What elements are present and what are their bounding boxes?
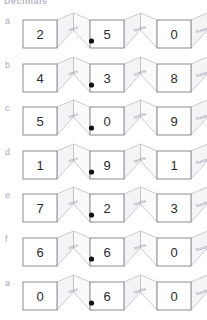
digit-value-2: 3 [170,201,177,216]
digit-cell[interactable]: 6 [90,282,124,310]
digit-value-1: 3 [103,70,110,85]
digit-value-0: 2 [36,27,43,42]
row-label: a [5,17,10,26]
fold-panel-right-face [141,144,158,179]
fold-panel-right-face [74,144,91,179]
place-value-strip: onestenthshundredths509 [23,99,204,139]
place-value-strip-graphic: onestenthshundredths250 [23,12,204,52]
digit-cell[interactable]: 7 [23,194,57,222]
fold-panel: tenths [124,100,157,135]
strip-row: conestenthshundredths509 [0,98,207,142]
place-value-strip-graphic: onestenthshundredths660 [23,230,204,270]
row-label: c [5,104,10,113]
digit-cell[interactable]: 6 [23,238,57,266]
digit-value-0: 5 [36,114,43,129]
digit-cell[interactable]: 6 [90,238,124,266]
digit-value-2: 8 [170,70,177,85]
row-label: a [5,279,10,288]
fold-panel-right-face [74,13,91,48]
digit-value-1: 6 [103,288,110,303]
digit-cell[interactable]: 1 [157,151,191,179]
digit-value-0: 1 [36,157,43,172]
digit-cell[interactable]: 0 [157,282,191,310]
strip-row: donestenthshundredths191 [0,142,207,186]
decimal-point-dot [89,38,94,43]
row-label: b [5,61,10,70]
digit-value-0: 0 [36,288,43,303]
fold-panel: hundredths [191,231,207,266]
place-value-strip-graphic: onestenthshundredths723 [23,186,204,226]
digit-cell[interactable]: 0 [157,20,191,48]
strip-row: aonestenthshundredths250 [0,11,207,55]
row-label: e [5,191,10,200]
digit-value-1: 6 [103,244,110,259]
digit-cell[interactable]: 4 [23,64,57,92]
digit-value-0: 6 [36,244,43,259]
page-title: Decimals [4,0,48,6]
fold-panel-right-face [74,231,91,266]
decimal-point-dot [89,213,94,218]
digit-cell[interactable]: 0 [90,107,124,135]
fold-panel: hundredths [191,187,207,222]
digit-cell[interactable]: 2 [23,20,57,48]
place-value-strip: onestenthshundredths191 [23,143,204,183]
fold-panel-right-face [74,57,91,92]
decimal-point-dot [89,169,94,174]
digit-value-2: 0 [170,244,177,259]
fold-panel: tenths [124,57,157,92]
fold-panel-right-face [141,13,158,48]
digit-value-1: 0 [103,114,110,129]
strip-row-list: aonestenthshundredths250bonestenthshundr… [0,11,207,316]
digit-cell[interactable]: 9 [90,151,124,179]
digit-value-1: 5 [103,27,110,42]
decimal-point-dot [89,300,94,305]
place-value-strip-graphic: onestenthshundredths438 [23,56,204,96]
fold-panel-right-face [74,100,91,135]
fold-panel: hundredths [191,275,207,310]
place-value-strip-graphic: onestenthshundredths060 [23,274,204,314]
decimal-point-dot [89,256,94,261]
fold-panel: hundredths [191,100,207,135]
digit-cell[interactable]: 8 [157,64,191,92]
place-value-strip-graphic: onestenthshundredths191 [23,143,204,183]
digit-value-2: 0 [170,27,177,42]
digit-value-0: 7 [36,201,43,216]
fold-panel: hundredths [191,13,207,48]
digit-cell[interactable]: 0 [23,282,57,310]
digit-value-2: 0 [170,288,177,303]
digit-value-1: 9 [103,157,110,172]
fold-panel: tenths [124,231,157,266]
decimal-point-dot [89,126,94,131]
place-value-strip: onestenthshundredths438 [23,56,204,96]
place-value-strip: onestenthshundredths660 [23,230,204,270]
row-label: d [5,148,10,157]
fold-panel: tenths [124,13,157,48]
digit-cell[interactable]: 5 [90,20,124,48]
place-value-strip: onestenthshundredths060 [23,274,204,314]
fold-panel: hundredths [191,57,207,92]
row-label: f [5,235,8,244]
digit-value-2: 1 [170,157,177,172]
place-value-strip: onestenthshundredths723 [23,186,204,226]
fold-panel-right-face [141,187,158,222]
fold-panel: ones [57,144,90,179]
digit-cell[interactable]: 9 [157,107,191,135]
worksheet-page: Decimals aonestenthshundredths250boneste… [0,0,207,320]
digit-cell[interactable]: 0 [157,238,191,266]
fold-panel: ones [57,275,90,310]
fold-panel: hundredths [191,144,207,179]
place-value-strip-graphic: onestenthshundredths509 [23,99,204,139]
digit-cell[interactable]: 3 [157,194,191,222]
digit-value-2: 9 [170,114,177,129]
digit-cell[interactable]: 3 [90,64,124,92]
fold-panel-right-face [74,275,91,310]
fold-panel-right-face [141,100,158,135]
digit-cell[interactable]: 2 [90,194,124,222]
digit-cell[interactable]: 1 [23,151,57,179]
strip-row: bonestenthshundredths438 [0,55,207,99]
strip-row: fonestenthshundredths660 [0,229,207,273]
digit-value-0: 4 [36,70,43,85]
decimal-point-dot [89,82,94,87]
digit-cell[interactable]: 5 [23,107,57,135]
fold-panel-right-face [141,275,158,310]
